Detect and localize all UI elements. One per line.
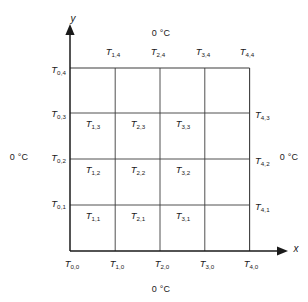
node-label-bottom: T2,0 bbox=[155, 259, 170, 269]
x-axis-arrowhead bbox=[277, 246, 288, 255]
node-label-interior: T2,3 bbox=[131, 119, 146, 129]
vertical-gridlines bbox=[115, 68, 205, 251]
node-label-interior: T3,2 bbox=[176, 165, 191, 175]
boundary-temp-left: 0 °C bbox=[10, 153, 28, 162]
node-label-interior: T1,1 bbox=[86, 211, 101, 221]
boundary-temp-bottom: 0 °C bbox=[152, 285, 170, 294]
node-label-right: T4,1 bbox=[255, 202, 270, 212]
node-label-bottom: T3,0 bbox=[200, 259, 215, 269]
node-label-bottom: T1,0 bbox=[110, 259, 125, 269]
node-label-left: T0,2 bbox=[51, 153, 66, 163]
node-label-top: T2,4 bbox=[151, 47, 166, 57]
y-axis-arrowhead bbox=[65, 24, 74, 35]
node-label-top: T3,4 bbox=[196, 47, 211, 57]
node-label-right: T4,2 bbox=[255, 156, 270, 166]
finite-difference-grid-figure: y x 0 °C 0 °C 0 °C 0 °C T1,4 T2,4 T3,4 T… bbox=[0, 0, 308, 302]
x-axis-label: x bbox=[294, 244, 299, 254]
node-label-interior: T3,3 bbox=[176, 119, 191, 129]
y-axis-label: y bbox=[71, 14, 76, 24]
node-label-top: T4,4 bbox=[240, 47, 255, 57]
node-label-interior: T2,2 bbox=[131, 165, 146, 175]
node-label-interior: T3,1 bbox=[176, 211, 191, 221]
node-label-bottom: T0,0 bbox=[65, 259, 80, 269]
node-label-left: T0,4 bbox=[51, 65, 66, 75]
node-label-top: T1,4 bbox=[106, 47, 121, 57]
boundary-temp-top: 0 °C bbox=[152, 29, 170, 38]
node-label-bottom: T4,0 bbox=[244, 259, 259, 269]
node-label-left: T0,3 bbox=[51, 109, 66, 119]
node-label-interior: T2,1 bbox=[131, 211, 146, 221]
boundary-temp-right: 0 °C bbox=[280, 153, 298, 162]
node-label-right: T4,3 bbox=[255, 110, 270, 120]
node-label-interior: T1,3 bbox=[86, 119, 101, 129]
node-label-interior: T1,2 bbox=[86, 165, 101, 175]
node-label-left: T0,1 bbox=[51, 199, 66, 209]
